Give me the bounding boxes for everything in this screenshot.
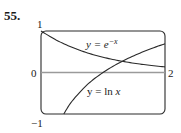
- label-exp-text: y = e: [85, 38, 109, 50]
- label-exp-neg-x: y = e−x: [85, 37, 118, 50]
- y-bottom-tick-label: −1: [31, 117, 43, 129]
- x-left-tick-label: 0: [31, 67, 37, 79]
- x-right-tick-label: 2: [168, 67, 174, 79]
- curve-ln-x: [64, 44, 165, 114]
- y-top-tick-label: 1: [37, 18, 43, 30]
- graph: 1 −1 0 2 y = e−x y = ln x: [0, 0, 181, 133]
- label-ln-var: x: [115, 85, 121, 97]
- label-ln-x: y = ln x: [87, 85, 121, 97]
- label-exp-superscript: −x: [109, 37, 118, 46]
- label-ln-text: y = ln: [87, 85, 116, 97]
